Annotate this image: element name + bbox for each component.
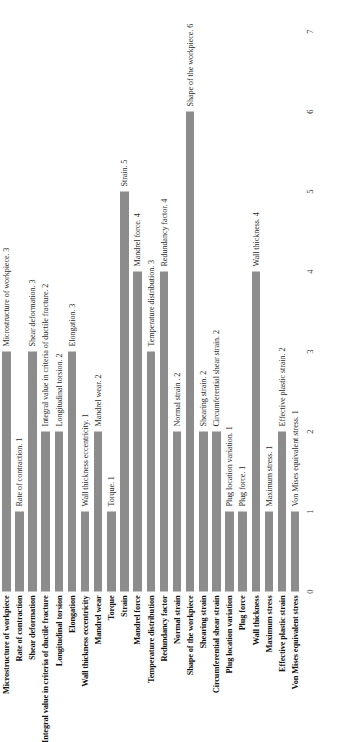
bar (55, 431, 64, 591)
bar-value-label: Normal strain . 2 (171, 372, 184, 426)
category-label: Effective plastic strain (276, 595, 289, 671)
bar-value-label: Effective plastic strain. 2 (276, 347, 289, 426)
category-label: Temperature distribution (145, 595, 158, 682)
bar (15, 511, 24, 591)
bar-value-label: Rate of contraction. 1 (13, 437, 26, 506)
bar-row: Effective plastic strain. 2 (276, 31, 289, 591)
bar-value-label: Shape of the workpiece. 6 (184, 23, 197, 106)
bar-row: Wall thickness. 4 (250, 31, 263, 591)
bar-row: Plug force. 1 (236, 31, 249, 591)
category-axis-labels: Microstructure of workpieceRate of contr… (0, 591, 302, 737)
bar (107, 511, 116, 591)
bar-value-label: Mandrel wear. 2 (92, 374, 105, 426)
bar-row: Microstructure of workpiece. 3 (0, 31, 13, 591)
axis-tick-label: 3 (305, 339, 315, 363)
bar-value-label: Redundancy factor. 4 (158, 198, 171, 266)
bar (28, 351, 37, 591)
category-label: Shear deformation (26, 595, 39, 660)
bar (278, 431, 287, 591)
category-label: Torque (105, 595, 118, 620)
bar (41, 431, 50, 591)
bar-row: Elongation. 3 (66, 31, 79, 591)
bar-row: Mandrel wear. 2 (92, 31, 105, 591)
bar (291, 511, 300, 591)
bar-value-label: Shear deformation. 3 (26, 279, 39, 346)
category-label: Strain (118, 595, 131, 616)
bar (120, 191, 129, 591)
bar-row: Von Mises equivalent stress. 1 (289, 31, 302, 591)
bar (265, 511, 274, 591)
bar-value-label: Wall thickness eccentricity. 1 (79, 413, 92, 506)
bar (68, 351, 77, 591)
bar-row: Mandrel force. 4 (131, 31, 144, 591)
bar-row: Maximum stress. 1 (263, 31, 276, 591)
category-label: Normal strain (171, 595, 184, 644)
category-label: Elongation (66, 595, 79, 633)
category-label: Shape of the workpiece (184, 595, 197, 675)
axis-tick-label: 0 (305, 579, 315, 603)
bar-row: Wall thickness eccentricity. 1 (79, 31, 92, 591)
axis-tick-label: 2 (305, 419, 315, 443)
bar (133, 271, 142, 591)
category-label: Circumferential shear strain (210, 595, 223, 693)
bar-value-label: Torque. 1 (105, 476, 118, 506)
bar-value-label: Temperature distribution. 3 (145, 259, 158, 346)
category-label: Redundancy factor (158, 595, 171, 661)
bar (199, 431, 208, 591)
bar-row: Torque. 1 (105, 31, 118, 591)
category-label: Shearing strain (197, 595, 210, 648)
bar-row: Redundancy factor. 4 (158, 31, 171, 591)
bar-value-label: Integral value in criteria of ductile fr… (39, 283, 52, 426)
bar-value-label: Mandrel force. 4 (131, 213, 144, 266)
bar-row: Shear deformation. 3 (26, 31, 39, 591)
category-label: Wall thickness (250, 595, 263, 645)
axis-tick-label: 6 (305, 99, 315, 123)
bar (212, 431, 221, 591)
bar (173, 431, 182, 591)
category-label: Integral value in criteria of ductile fr… (39, 595, 52, 742)
bar-value-label: Wall thickness. 4 (250, 212, 263, 266)
bar-value-label: Shearing strain. 2 (197, 370, 210, 426)
bar-value-label: Microstructure of workpiece. 3 (0, 247, 13, 346)
axis-tick-label: 5 (305, 179, 315, 203)
bar-row: Longitudinal torsion. 2 (53, 31, 66, 591)
bar (81, 511, 90, 591)
bar-row: Integral value in criteria of ductile fr… (39, 31, 52, 591)
category-label: Plug location variation (223, 595, 236, 673)
bar-value-label: Circumferential shear strain. 2 (210, 330, 223, 426)
category-label: Plug force (236, 595, 249, 630)
category-label: Von Mises equivalent stress (289, 595, 302, 689)
category-label: Mandrel wear (92, 595, 105, 644)
bar (160, 271, 169, 591)
bar-row: Circumferential shear strain. 2 (210, 31, 223, 591)
bar (186, 111, 195, 591)
bar (147, 351, 156, 591)
axis-tick-label: 1 (305, 499, 315, 523)
category-label: Rate of contraction (13, 595, 26, 661)
axis-tick-label: 4 (305, 259, 315, 283)
category-label: Maximum stress (263, 595, 276, 652)
bar (2, 351, 11, 591)
category-label: Wall thickness eccentricity (79, 595, 92, 686)
bar-row: Normal strain . 2 (171, 31, 184, 591)
bar-value-label: Elongation. 3 (66, 303, 79, 346)
bar (225, 511, 234, 591)
bar-value-label: Strain. 5 (118, 159, 131, 186)
bar-row: Plug location variation. 1 (223, 31, 236, 591)
bar-value-label: Longitudinal torsion. 2 (53, 353, 66, 426)
value-axis: 01234567 (302, 31, 324, 591)
bar (94, 431, 103, 591)
bar-value-label: Maximum stress. 1 (263, 445, 276, 506)
category-label: Mandrel force (131, 595, 144, 644)
bar-row: Rate of contraction. 1 (13, 31, 26, 591)
bar-value-label: Plug force. 1 (236, 465, 249, 506)
bar-row: Strain. 5 (118, 31, 131, 591)
bar-row: Shape of the workpiece. 6 (184, 31, 197, 591)
category-label: Longitudinal torsion (53, 595, 66, 666)
axis-tick-label: 7 (305, 19, 315, 43)
bar-series: Microstructure of workpiece. 3Rate of co… (0, 31, 302, 591)
bar-row: Temperature distribution. 3 (145, 31, 158, 591)
